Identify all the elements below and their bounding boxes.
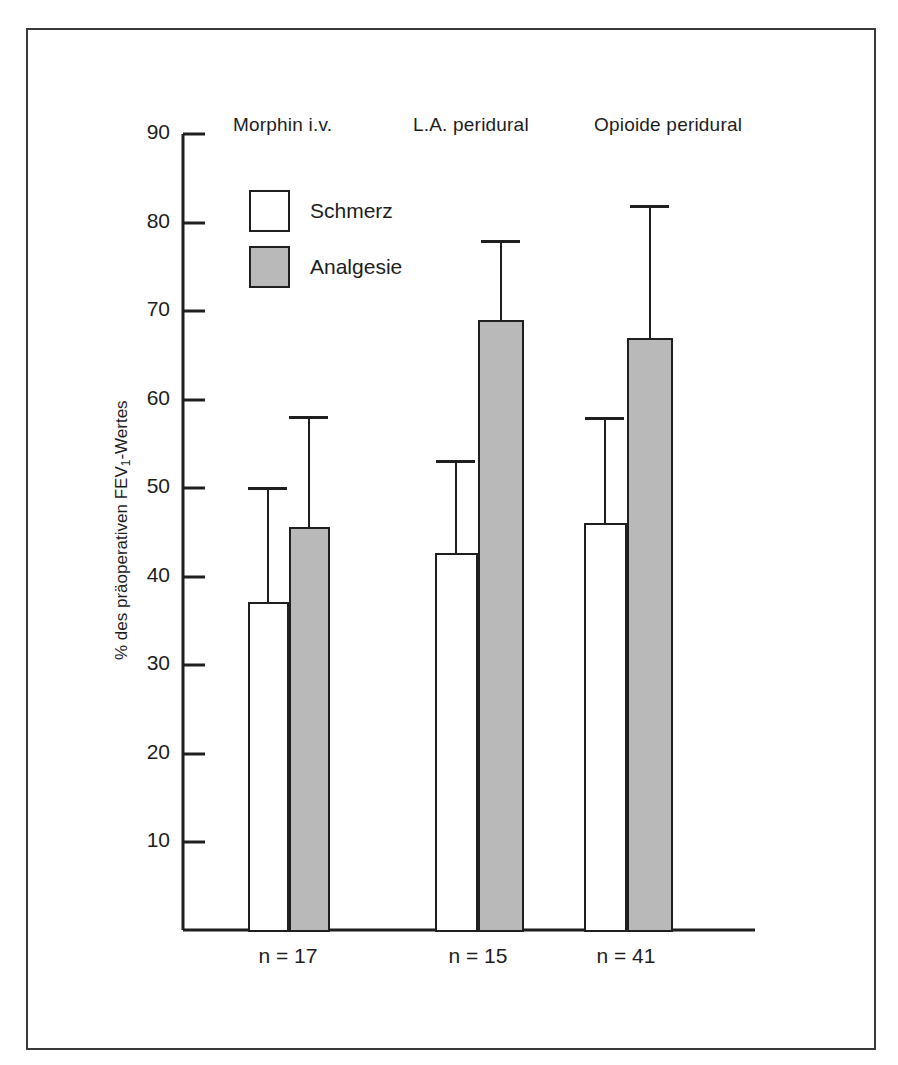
- bar-analgesie-morphin: [289, 527, 330, 932]
- errorbar-cap-schmerz-morphin: [248, 487, 287, 490]
- y-axis-label-pre: % des präoperativen FEV: [112, 466, 131, 660]
- errorbar-cap-analgesie-morphin: [289, 416, 328, 419]
- group-title-opioide-peridural: Opioide peridural: [594, 114, 742, 136]
- y-axis-label-subscript: 1: [119, 460, 133, 467]
- ytick-80: 80: [118, 209, 170, 233]
- errorbar-stem-analgesie-la-peridural: [500, 240, 502, 321]
- ytick-10: 10: [118, 828, 170, 852]
- legend-label-schmerz: Schmerz: [310, 199, 393, 223]
- bar-schmerz-opioide-peridural: [584, 523, 627, 932]
- errorbar-stem-schmerz-morphin: [267, 487, 269, 603]
- bar-analgesie-la-peridural: [478, 320, 524, 932]
- legend-swatch-schmerz: [249, 190, 290, 232]
- errorbar-cap-schmerz-la-peridural: [436, 460, 475, 463]
- ytick-70: 70: [118, 297, 170, 321]
- sample-size-la-peridural: n = 15: [418, 944, 538, 968]
- errorbar-stem-schmerz-opioide-peridural: [604, 417, 606, 524]
- ytick-90: 90: [118, 120, 170, 144]
- group-title-morphin: Morphin i.v.: [233, 114, 332, 136]
- sample-size-opioide-peridural: n = 41: [566, 944, 686, 968]
- bar-schmerz-la-peridural: [435, 553, 478, 932]
- legend-swatch-analgesie: [249, 246, 290, 288]
- errorbar-stem-analgesie-opioide-peridural: [649, 205, 651, 339]
- errorbar-stem-schmerz-la-peridural: [455, 460, 457, 554]
- sample-size-morphin: n = 17: [228, 944, 348, 968]
- errorbar-stem-analgesie-morphin: [308, 416, 310, 528]
- chart-page: 90 80 70 60 50 40 30 20 10 % des präoper…: [0, 0, 898, 1065]
- ytick-20: 20: [118, 740, 170, 764]
- group-title-la-peridural: L.A. peridural: [413, 114, 529, 136]
- y-axis-label-post: -Wertes: [112, 400, 131, 459]
- errorbar-cap-schmerz-opioide-peridural: [585, 417, 624, 420]
- y-axis-label: % des präoperativen FEV1-Wertes: [112, 400, 133, 660]
- errorbar-cap-analgesie-la-peridural: [481, 240, 520, 243]
- errorbar-cap-analgesie-opioide-peridural: [630, 205, 669, 208]
- bar-analgesie-opioide-peridural: [627, 338, 673, 932]
- legend-label-analgesie: Analgesie: [310, 255, 402, 279]
- bar-schmerz-morphin: [248, 602, 289, 932]
